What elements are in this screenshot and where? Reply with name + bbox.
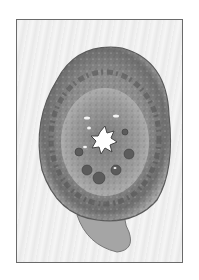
tissue-section-image [17, 20, 182, 262]
image-frame [16, 19, 183, 263]
